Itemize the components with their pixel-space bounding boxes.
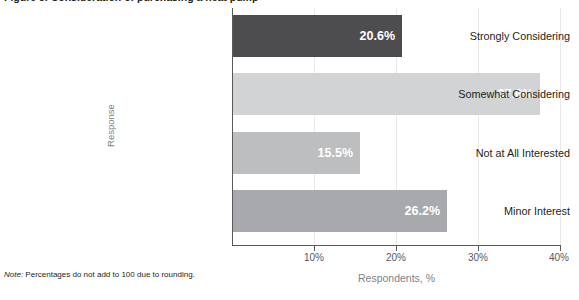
category-label-not-at-all-interested: Not at All Interested [387,147,579,159]
bar-value-not-at-all-interested: 15.5% [318,146,353,160]
bar-not-at-all-interested[interactable]: 15.5% [233,132,360,174]
y-axis-title-wrap: Response [99,0,115,260]
x-tick-label-40: 40% [539,252,579,263]
y-axis-title: Response [105,91,116,161]
tickmark-10 [314,246,315,251]
chart-note: Note: Percentages do not add to 100 due … [4,270,195,279]
bar-strongly-considering[interactable]: 20.6% [233,15,402,57]
category-label-minor-interest: Minor Interest [387,205,579,217]
x-tick-label-20: 20% [376,252,416,263]
bar-chart: 10% 20% 30% 40% 20.6% 37.6% 15.5% 26.2% … [0,0,579,300]
chart-note-text: Percentages do not add to 100 due to rou… [23,270,195,279]
x-tick-label-30: 30% [458,252,498,263]
tickmark-40 [560,246,561,251]
x-tick-label-10: 10% [294,252,334,263]
tickmark-20 [396,246,397,251]
x-axis-title: Respondents, % [232,272,561,284]
chart-note-prefix: Note: [4,270,23,279]
category-label-somewhat-considering: Somewhat Considering [387,88,579,100]
tickmark-30 [478,246,479,251]
category-label-strongly-considering: Strongly Considering [387,30,579,42]
